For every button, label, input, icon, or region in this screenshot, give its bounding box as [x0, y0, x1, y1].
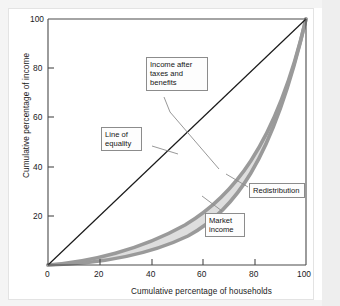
leader-line-income-after	[164, 97, 219, 169]
x-tick-label-100: 100	[297, 269, 311, 279]
x-tick-label-0: 0	[45, 269, 50, 279]
x-axis-title: Cumulative percentage of households	[131, 287, 272, 296]
y-tick-label-40: 40	[33, 162, 42, 172]
chart-svg	[0, 0, 340, 306]
callout-income-after-taxes: Income after taxes and benefits	[146, 57, 208, 91]
x-tick-label-20: 20	[94, 269, 103, 279]
y-tick-label-60: 60	[33, 112, 42, 122]
callout-market-income: Market income	[205, 213, 245, 237]
x-tick-label-60: 60	[197, 269, 206, 279]
lorenz-curve-figure: Cumulative percentage of income Cumulati…	[0, 0, 340, 306]
y-tick-label-100: 100	[30, 14, 44, 24]
callout-line-of-equality: Line of equality	[101, 127, 142, 151]
y-axis-ticks	[48, 68, 54, 216]
y-axis-title: Cumulative percentage of income	[22, 53, 31, 178]
plot-area: Cumulative percentage of income Cumulati…	[0, 0, 340, 306]
x-axis-ticks	[100, 259, 255, 265]
y-tick-label-20: 20	[33, 211, 42, 221]
callout-redistribution: Redistribution	[249, 183, 305, 198]
y-tick-label-80: 80	[33, 63, 42, 73]
x-tick-label-40: 40	[146, 269, 155, 279]
x-tick-label-80: 80	[249, 269, 258, 279]
